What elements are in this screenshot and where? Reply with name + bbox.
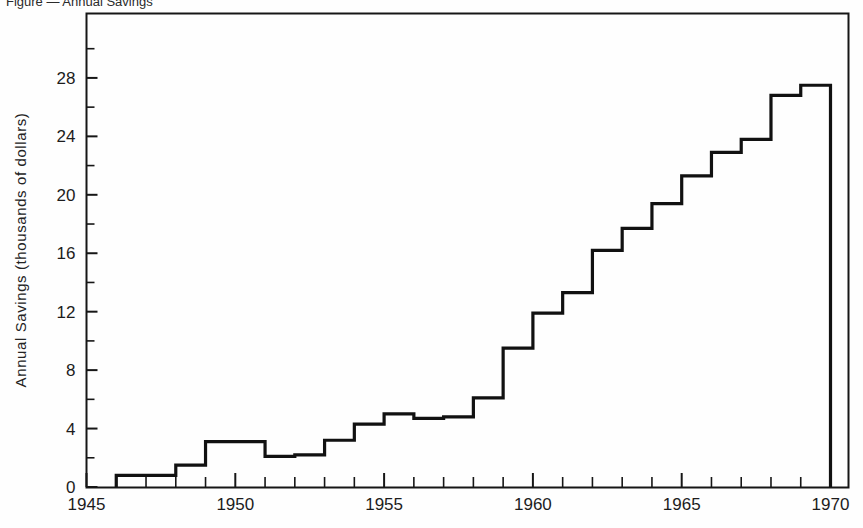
y-axis-tick-labels: 0481216202428: [57, 69, 76, 497]
annual-savings-step-line: [116, 85, 830, 487]
y-tick-label: 20: [57, 186, 76, 205]
chart-svg: Annual Savings (thousands of dollars) 04…: [0, 0, 863, 528]
y-tick-label: 12: [57, 303, 76, 322]
x-tick-label: 1960: [514, 495, 552, 514]
x-tick-label: 1965: [663, 495, 701, 514]
x-axis-ticks: [87, 473, 831, 487]
figure-page: Figure — Annual Savings Annual Savings (…: [0, 0, 863, 528]
y-tick-label: 4: [66, 420, 75, 439]
y-tick-label: 24: [57, 127, 76, 146]
y-tick-label: 8: [66, 361, 75, 380]
x-tick-label: 1950: [216, 495, 254, 514]
x-tick-label: 1945: [68, 495, 106, 514]
step-chart: Annual Savings (thousands of dollars) 04…: [0, 0, 863, 528]
x-axis-tick-labels: 194519501955196019651970: [68, 495, 850, 514]
y-tick-label: 28: [57, 69, 76, 88]
y-axis-ticks: [87, 49, 98, 487]
x-tick-label: 1955: [365, 495, 403, 514]
x-tick-label: 1970: [812, 495, 850, 514]
y-axis-title: Annual Savings (thousands of dollars): [12, 113, 29, 388]
y-tick-label: 16: [57, 244, 76, 263]
data-series-layer: [116, 85, 830, 487]
